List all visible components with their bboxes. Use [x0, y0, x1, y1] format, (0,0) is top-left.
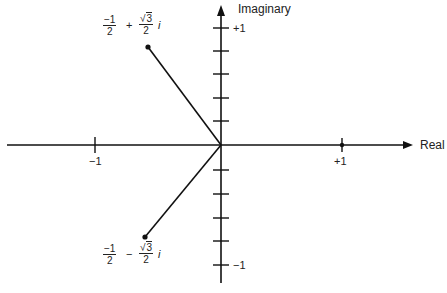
- lower-real-fraction: −1 2: [103, 243, 116, 266]
- real-axis-arrow-icon: [403, 141, 413, 149]
- upper-radicand: 3: [146, 12, 153, 24]
- upper-operator: +: [126, 19, 132, 31]
- point-upper-root: [145, 44, 150, 49]
- upper-imag-fraction: √3 2: [139, 13, 153, 36]
- real-axis-label: Real: [420, 138, 445, 152]
- imag-tick-label-neg1: −1: [233, 259, 246, 271]
- upper-real-numerator: −1: [103, 14, 116, 26]
- real-tick-label-neg1: −1: [89, 155, 102, 167]
- upper-real-denominator: 2: [107, 26, 113, 37]
- imaginary-axis-arrow-icon: [217, 5, 225, 16]
- lower-operator: −: [126, 248, 132, 260]
- lower-real-numerator: −1: [103, 243, 116, 255]
- imaginary-axis-label: Imaginary: [238, 2, 291, 16]
- lower-imag-fraction: √3 2: [139, 242, 153, 265]
- upper-imag-unit: i: [158, 19, 160, 31]
- upper-real-fraction: −1 2: [103, 14, 116, 37]
- lower-imag-denominator: 2: [143, 254, 149, 265]
- sqrt-icon: √: [140, 13, 146, 24]
- imag-tick-label-pos1: +1: [233, 22, 246, 34]
- lower-real-denominator: 2: [107, 255, 113, 266]
- lower-radicand: 3: [146, 241, 153, 253]
- point-lower-root: [142, 234, 147, 239]
- sqrt-icon: √: [140, 242, 146, 253]
- vector-lower-root: [145, 145, 221, 237]
- real-tick-label-pos1: +1: [334, 155, 347, 167]
- vector-upper-root: [148, 47, 221, 145]
- real-point-pos1: [340, 143, 344, 147]
- complex-plane-diagram: [0, 0, 447, 293]
- upper-imag-denominator: 2: [143, 25, 149, 36]
- lower-imag-unit: i: [158, 248, 160, 260]
